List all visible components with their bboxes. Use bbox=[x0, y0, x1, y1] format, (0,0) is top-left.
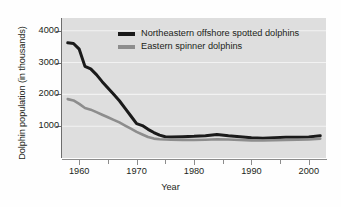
legend-item: Eastern spinner dolphins bbox=[118, 41, 328, 52]
x-tick-label: 1990 bbox=[228, 167, 274, 176]
x-tick-label: 1960 bbox=[56, 167, 102, 176]
y-tick-label: 2000 bbox=[19, 89, 59, 98]
y-tick-label: 4000 bbox=[19, 26, 59, 35]
x-tick-mark bbox=[137, 160, 138, 165]
x-tick-label: 2000 bbox=[286, 167, 332, 176]
chart-legend: Northeastern offshore spotted dolphins E… bbox=[118, 28, 328, 54]
x-tick-mark bbox=[79, 160, 80, 165]
x-axis-title: Year bbox=[0, 182, 341, 192]
legend-label: Eastern spinner dolphins bbox=[141, 42, 242, 51]
y-tick-label: 3000 bbox=[19, 58, 59, 67]
x-tick-mark-minor bbox=[280, 160, 281, 164]
x-tick-label: 1980 bbox=[171, 167, 217, 176]
x-tick-mark-minor bbox=[165, 160, 166, 164]
legend-item: Northeastern offshore spotted dolphins bbox=[118, 28, 328, 39]
x-tick-mark bbox=[251, 160, 252, 165]
legend-label: Northeastern offshore spotted dolphins bbox=[141, 29, 299, 38]
x-tick-mark bbox=[194, 160, 195, 165]
y-tick-label: 1000 bbox=[19, 121, 59, 130]
legend-swatch-gray bbox=[118, 45, 135, 49]
x-tick-mark bbox=[309, 160, 310, 165]
cropped-caption-artifact bbox=[0, 196, 341, 207]
x-tick-label: 1970 bbox=[114, 167, 160, 176]
x-tick-mark-minor bbox=[108, 160, 109, 164]
series-line bbox=[68, 43, 321, 138]
y-axis-line bbox=[61, 18, 62, 158]
legend-swatch-black bbox=[118, 32, 135, 36]
series-line bbox=[68, 99, 321, 140]
line-chart-figure: Dolphin population (in thousands) 100020… bbox=[0, 0, 341, 207]
x-tick-mark-minor bbox=[223, 160, 224, 164]
